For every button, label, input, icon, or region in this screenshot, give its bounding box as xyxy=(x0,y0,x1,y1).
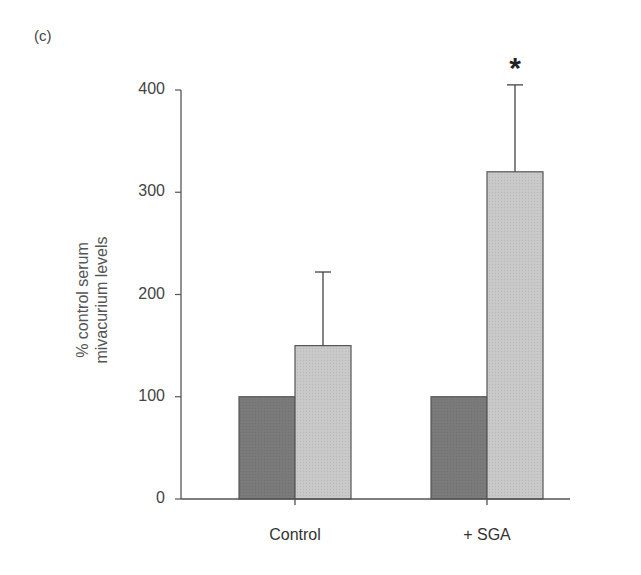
bar-chart-plot xyxy=(0,0,641,575)
bar-texture xyxy=(295,346,351,499)
bar-texture xyxy=(239,397,295,499)
bar-texture xyxy=(487,172,543,499)
bar-texture xyxy=(431,397,487,499)
